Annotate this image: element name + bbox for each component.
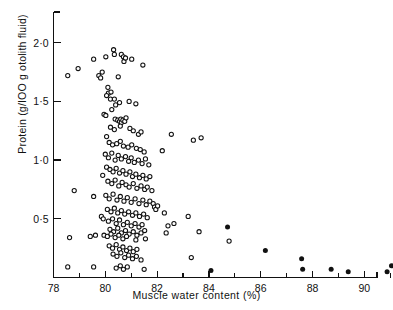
data-point-open bbox=[119, 251, 123, 255]
data-point-open bbox=[110, 217, 114, 221]
data-point-open bbox=[147, 163, 151, 167]
data-point-open bbox=[145, 185, 149, 189]
data-point-open bbox=[67, 235, 71, 239]
data-point-open bbox=[92, 265, 96, 269]
data-point-open bbox=[118, 124, 122, 128]
data-point-open bbox=[136, 158, 140, 162]
data-point-open bbox=[104, 193, 108, 197]
data-point-open bbox=[114, 166, 118, 170]
data-point-open bbox=[104, 55, 108, 59]
data-point-open bbox=[117, 233, 121, 237]
data-point-open bbox=[123, 154, 127, 158]
data-point-filled bbox=[346, 269, 351, 274]
data-point-filled bbox=[225, 225, 230, 230]
y-tick-label: 2·0 bbox=[33, 37, 48, 49]
data-point-open bbox=[142, 212, 146, 216]
data-point-open bbox=[172, 221, 176, 225]
data-point-open bbox=[104, 135, 108, 139]
data-point-open bbox=[139, 130, 143, 134]
data-point-open bbox=[123, 56, 127, 60]
y-tick-label: 0·5 bbox=[33, 213, 48, 225]
data-point-open bbox=[116, 75, 120, 79]
y-tick-label: 1·5 bbox=[33, 95, 48, 107]
data-point-open bbox=[76, 66, 80, 70]
data-point-open bbox=[140, 223, 144, 227]
data-point-open bbox=[114, 266, 118, 270]
data-point-open bbox=[111, 192, 115, 196]
data-point-open bbox=[130, 143, 134, 147]
data-point-open bbox=[191, 138, 195, 142]
data-point-open bbox=[106, 85, 110, 89]
tick-marks bbox=[54, 43, 391, 278]
data-point-open bbox=[125, 220, 129, 224]
data-point-open bbox=[156, 204, 160, 208]
data-point-open bbox=[189, 255, 193, 259]
data-point-open bbox=[133, 221, 137, 225]
data-point-open bbox=[143, 228, 147, 232]
data-points bbox=[66, 48, 393, 274]
data-point-open bbox=[110, 143, 114, 147]
data-point-open bbox=[93, 233, 97, 237]
data-point-open bbox=[132, 160, 136, 164]
data-point-filled bbox=[300, 267, 305, 272]
data-point-open bbox=[145, 216, 149, 220]
data-point-open bbox=[135, 247, 139, 251]
data-point-open bbox=[115, 198, 119, 202]
plot-area: 788082848688900·51·01·52·0 bbox=[0, 0, 393, 310]
data-point-filled bbox=[329, 267, 334, 272]
data-point-open bbox=[127, 99, 131, 103]
data-point-open bbox=[119, 208, 123, 212]
data-point-open bbox=[141, 173, 145, 177]
data-point-open bbox=[135, 233, 139, 237]
data-point-open bbox=[104, 93, 108, 97]
data-point-open bbox=[100, 70, 104, 74]
data-point-open bbox=[137, 214, 141, 218]
data-point-open bbox=[166, 224, 170, 228]
data-point-open bbox=[117, 184, 121, 188]
data-point-open bbox=[137, 201, 141, 205]
data-point-filled bbox=[208, 268, 213, 273]
data-point-open bbox=[106, 156, 110, 160]
data-point-open bbox=[113, 158, 117, 162]
data-point-open bbox=[133, 197, 137, 201]
data-point-open bbox=[124, 116, 128, 120]
data-point-open bbox=[117, 100, 121, 104]
data-point-open bbox=[125, 265, 129, 269]
data-point-open bbox=[118, 264, 122, 268]
data-point-open bbox=[135, 186, 139, 190]
data-point-open bbox=[134, 211, 138, 215]
data-point-open bbox=[144, 203, 148, 207]
data-point-open bbox=[227, 239, 231, 243]
data-point-open bbox=[134, 102, 138, 106]
data-point-open bbox=[111, 48, 115, 52]
data-point-open bbox=[142, 267, 146, 271]
data-point-open bbox=[116, 153, 120, 157]
data-point-open bbox=[103, 152, 107, 156]
data-point-open bbox=[112, 52, 116, 56]
data-point-open bbox=[169, 132, 173, 136]
scatter-chart-figure: 788082848688900·51·01·52·0 Protein (g/IO… bbox=[0, 0, 393, 310]
data-point-open bbox=[123, 228, 127, 232]
data-point-open bbox=[113, 178, 117, 182]
y-tick-label: 1·0 bbox=[33, 154, 48, 166]
data-point-open bbox=[72, 189, 76, 193]
data-point-open bbox=[110, 246, 114, 250]
data-point-open bbox=[110, 151, 114, 155]
data-point-open bbox=[101, 217, 105, 221]
data-point-open bbox=[114, 221, 118, 225]
data-point-open bbox=[140, 162, 144, 166]
data-point-open bbox=[141, 198, 145, 202]
data-point-open bbox=[110, 181, 114, 185]
data-point-open bbox=[66, 73, 70, 77]
data-point-open bbox=[109, 210, 113, 214]
data-point-open bbox=[164, 231, 168, 235]
data-point-open bbox=[66, 265, 70, 269]
data-point-open bbox=[122, 199, 126, 203]
data-point-open bbox=[112, 127, 116, 131]
data-point-open bbox=[104, 113, 108, 117]
data-point-open bbox=[121, 245, 125, 249]
data-point-open bbox=[109, 90, 113, 94]
data-point-open bbox=[130, 57, 134, 61]
data-point-open bbox=[186, 214, 190, 218]
data-point-open bbox=[92, 194, 96, 198]
